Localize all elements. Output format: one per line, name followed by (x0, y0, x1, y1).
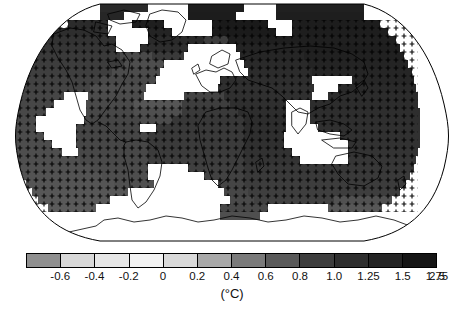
colorbar-tick-8: 1.0 (326, 269, 342, 283)
figure-container: -0.6-0.4-0.200.20.40.60.81.01.251.51.752… (0, 0, 464, 311)
colorbar-tick-3: 0 (160, 269, 166, 283)
colorbar-tick-10: 1.5 (395, 269, 411, 283)
colorbar-tick-7: 0.8 (292, 269, 308, 283)
colorbar-segment-1 (61, 254, 95, 267)
colorbar-segment-9 (335, 254, 369, 267)
colorbar-tick-2: -0.2 (119, 269, 139, 283)
colorbar-segment-3 (130, 254, 164, 267)
colorbar-segment-11 (403, 254, 436, 267)
colorbar-segment-4 (164, 254, 198, 267)
colorbar-tick-0: -0.6 (50, 269, 70, 283)
colorbar-tick-labels: -0.6-0.4-0.200.20.40.60.81.01.251.51.752… (0, 269, 464, 285)
colorbar-axis-label: (°C) (0, 286, 464, 301)
colorbar-tick-12: 2.5 (429, 269, 445, 283)
colorbar-panel: -0.6-0.4-0.200.20.40.60.81.01.251.51.752… (0, 248, 464, 311)
colorbar-segment-6 (232, 254, 266, 267)
colorbar-tick-1: -0.4 (85, 269, 105, 283)
colorbar-segment-8 (300, 254, 334, 267)
colorbar-segment-5 (198, 254, 232, 267)
colorbar-segment-2 (95, 254, 129, 267)
world-anomaly-map (0, 0, 464, 245)
colorbar-segment-10 (369, 254, 403, 267)
map-data-layer (0, 0, 464, 245)
colorbar-segment-7 (266, 254, 300, 267)
colorbar (26, 253, 437, 268)
significance-stipple-layer (0, 0, 464, 245)
colorbar-tick-4: 0.2 (189, 269, 205, 283)
colorbar-tick-9: 1.25 (357, 269, 379, 283)
map-panel (0, 0, 464, 245)
colorbar-tick-6: 0.6 (258, 269, 274, 283)
colorbar-segment-0 (27, 254, 61, 267)
colorbar-tick-5: 0.4 (224, 269, 240, 283)
